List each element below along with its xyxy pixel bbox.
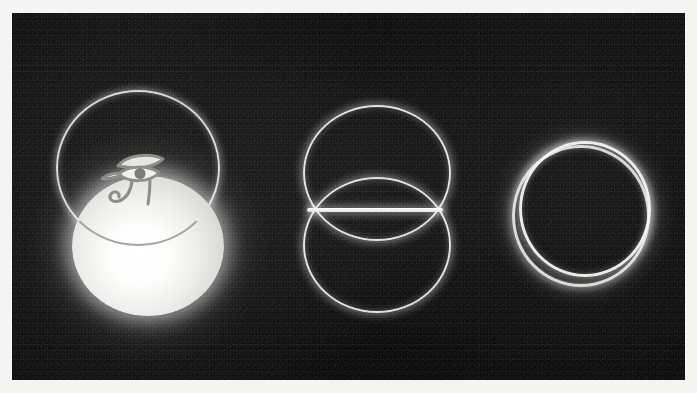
figure-eye-of-horus-sphere: [42, 78, 257, 328]
inner-ring: [519, 141, 651, 277]
eye-of-horus-icon: [97, 148, 171, 210]
vesica-horizontal-chord: [307, 208, 443, 212]
image-canvas: [0, 0, 697, 393]
vesica-lower-circle: [303, 177, 451, 313]
dark-background-plate: [12, 13, 685, 380]
figure-vesica-piscis: [295, 99, 455, 315]
figure-offset-concentric-rings: [512, 141, 652, 285]
